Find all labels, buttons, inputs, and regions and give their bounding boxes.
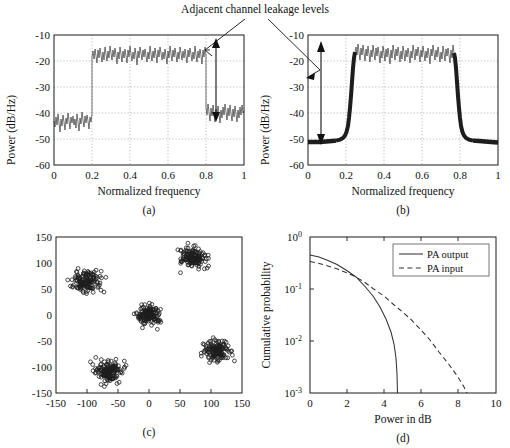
panel-c: 150 100 50 0 -50 -100 -150 -150 -100 -50… — [2, 222, 254, 448]
panel-b-frame — [308, 35, 498, 165]
svg-text:150: 150 — [234, 397, 251, 409]
svg-text:0: 0 — [305, 169, 311, 181]
svg-text:6: 6 — [418, 397, 424, 409]
panel-b-xticks: 0 0.2 0.4 0.6 0.8 1 — [305, 169, 501, 181]
panel-a: Power (dB/Hz) -10 -20 -30 -40 -50 -60 — [2, 22, 254, 222]
svg-text:-100: -100 — [32, 361, 53, 373]
constellation-point — [91, 363, 95, 367]
svg-text:-10: -10 — [35, 29, 50, 41]
svg-text:-150: -150 — [46, 397, 67, 409]
svg-text:0.2: 0.2 — [339, 169, 353, 181]
panel-a-yticks: -10 -20 -30 -40 -50 -60 — [35, 29, 50, 171]
curve-pa-input — [310, 262, 467, 394]
panel-c-xticks-marks — [87, 389, 211, 393]
svg-text:8: 8 — [455, 397, 461, 409]
svg-text:Power (dB/Hz): Power (dB/Hz) — [259, 95, 272, 165]
svg-text:Power (dB/Hz): Power (dB/Hz) — [5, 95, 18, 165]
panel-c-sublabel: (c) — [143, 426, 156, 439]
constellation-point — [70, 278, 74, 282]
panel-d-sublabel: (d) — [396, 432, 410, 445]
constellation-point — [99, 288, 103, 292]
svg-text:0.6: 0.6 — [415, 169, 429, 181]
constellation-point — [201, 342, 205, 346]
panel-a-yaxis-label: Power (dB/Hz) — [5, 95, 18, 165]
panel-d-yaxis-label: Cumulative probability — [260, 261, 273, 368]
svg-text:0: 0 — [307, 397, 313, 409]
panel-d-legend: PA output PA input — [393, 244, 489, 276]
constellation-point — [94, 356, 98, 360]
panel-c-xticks: -150 -100 -50 0 50 100 150 — [46, 397, 251, 409]
svg-text:-60: -60 — [289, 159, 304, 171]
panel-b-trace — [308, 44, 498, 143]
figure-root: Adjacent channel leakage levels Power (d… — [0, 0, 510, 448]
constellation-point — [91, 290, 95, 294]
panel-b-yticks: -10 -20 -30 -40 -50 -60 — [289, 29, 304, 171]
panel-b-grid — [308, 35, 498, 165]
svg-text:0: 0 — [146, 397, 152, 409]
constellation-point — [155, 327, 159, 331]
legend-label-pa-input: PA input — [427, 263, 463, 274]
panel-d-xticks: 0 2 4 6 8 10 — [307, 397, 502, 409]
constellation-point — [179, 271, 183, 275]
panel-c-yticks: 150 100 50 0 -50 -100 -150 — [32, 231, 53, 399]
constellation-point — [122, 359, 126, 363]
svg-text:-100: -100 — [77, 397, 98, 409]
svg-text:-60: -60 — [35, 159, 50, 171]
svg-text:0: 0 — [51, 169, 57, 181]
constellation-point — [91, 369, 95, 373]
svg-text:0.2: 0.2 — [85, 169, 99, 181]
svg-text:2: 2 — [344, 397, 350, 409]
panel-d-yticks: 100 10-1 10-2 10-3 — [284, 230, 302, 399]
svg-text:0.4: 0.4 — [123, 169, 137, 181]
constellation-point — [114, 357, 118, 361]
svg-text:-50: -50 — [37, 335, 52, 347]
svg-text:10-1: 10-1 — [284, 282, 302, 295]
constellation-point — [186, 241, 190, 245]
annotation-text: Adjacent channel leakage levels — [181, 3, 329, 16]
svg-text:-50: -50 — [289, 133, 304, 145]
constellation-point — [104, 275, 108, 279]
constellation-point — [99, 269, 103, 273]
panel-b: Power (dB/Hz) -10 -20 -30 -40 -50 -60 — [256, 22, 508, 222]
legend-label-pa-output: PA output — [427, 249, 468, 260]
constellation-point — [203, 267, 207, 271]
svg-text:100: 100 — [287, 230, 302, 243]
svg-text:100: 100 — [203, 397, 220, 409]
svg-text:1: 1 — [241, 169, 247, 181]
svg-text:-20: -20 — [289, 55, 304, 67]
svg-text:50: 50 — [41, 283, 53, 295]
panel-a-xticks: 0 0.2 0.4 0.6 0.8 1 — [51, 169, 247, 181]
constellation-point — [231, 353, 235, 357]
svg-text:0.6: 0.6 — [161, 169, 175, 181]
svg-text:-10: -10 — [289, 29, 304, 41]
panel-a-xaxis-label: Normalized frequency — [97, 185, 200, 198]
svg-text:-40: -40 — [35, 107, 50, 119]
svg-text:50: 50 — [175, 397, 187, 409]
panel-d-xaxis-label: Power in dB — [374, 413, 432, 425]
svg-text:-40: -40 — [289, 107, 304, 119]
panel-d: Cumulative probability 100 10-1 10-2 10-… — [256, 222, 508, 448]
panel-a-leakage-arrow — [212, 38, 220, 122]
constellation-point — [233, 359, 237, 363]
svg-text:-50: -50 — [35, 133, 50, 145]
svg-text:4: 4 — [381, 397, 387, 409]
svg-text:-50: -50 — [111, 397, 126, 409]
svg-text:1: 1 — [495, 169, 501, 181]
svg-text:10-3: 10-3 — [284, 386, 302, 399]
svg-text:-30: -30 — [289, 81, 304, 93]
svg-text:10-2: 10-2 — [284, 334, 302, 347]
svg-text:10: 10 — [491, 397, 503, 409]
constellation-point — [141, 326, 145, 330]
constellation-point — [76, 267, 80, 271]
panel-b-leakage-arrow — [317, 41, 325, 145]
panel-b-xaxis-label: Normalized frequency — [351, 185, 454, 198]
svg-text:0: 0 — [47, 309, 53, 321]
panel-b-yaxis-label: Power (dB/Hz) — [259, 95, 272, 165]
svg-text:100: 100 — [36, 257, 53, 269]
svg-text:-30: -30 — [35, 81, 50, 93]
svg-text:150: 150 — [36, 231, 53, 243]
panel-c-points — [66, 241, 237, 388]
svg-text:0.8: 0.8 — [453, 169, 467, 181]
svg-text:0.8: 0.8 — [199, 169, 213, 181]
panel-a-sublabel: (a) — [143, 204, 156, 217]
